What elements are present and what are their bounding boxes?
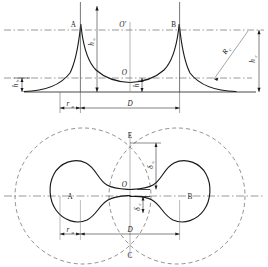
dimension-rc-line xyxy=(214,31,248,79)
dimension-delta-c-subscript: c xyxy=(137,204,142,206)
dimension-d-upper-label: D xyxy=(126,100,133,108)
dimension-delta-a-label: δ xyxy=(147,165,155,169)
dimension-delta-c: δ c xyxy=(134,197,151,214)
dimension-ra-upper: r a xyxy=(60,100,80,110)
label-peak-b: B xyxy=(171,21,176,29)
dimension-hb-subscript: b xyxy=(15,79,20,82)
dimension-d-lower-arrow-right xyxy=(175,232,179,235)
dimension-rc-subscript: c xyxy=(227,47,232,52)
label-midpoint-top: O' xyxy=(119,21,126,29)
label-lobe-a: A xyxy=(67,193,73,201)
dimension-hc: h c xyxy=(249,30,261,92)
dimension-h0-label-group: h 0 xyxy=(133,79,142,87)
dimension-h0-arrow-bottom xyxy=(141,88,144,92)
dimension-h0: h 0 xyxy=(133,78,144,92)
dimension-d-upper-arrow-right xyxy=(175,106,179,109)
dimension-hb-arrow-bottom xyxy=(21,88,24,92)
dimension-delta-c-arrow-bottom xyxy=(142,209,145,213)
dimension-h0-label: h xyxy=(133,83,141,87)
dimension-h0-subscript: 0 xyxy=(137,79,142,82)
dimension-delta-a-subscript: a xyxy=(150,161,155,164)
dimension-ha: h a xyxy=(88,6,99,92)
dimension-hc-subscript: c xyxy=(253,56,258,58)
dimension-ra-upper-arrow-right xyxy=(76,106,80,109)
label-peak-a: A xyxy=(71,21,77,29)
dimension-hc-label-group: h c xyxy=(249,56,258,63)
dimension-ra-lower-arrow-left xyxy=(60,232,64,235)
dimension-hc-arrow-top xyxy=(257,30,260,34)
dimension-hb-label-group: h b xyxy=(12,79,21,87)
dimension-ha-label: h xyxy=(88,42,96,46)
technical-diagram: A B O' O h a h 0 xyxy=(0,0,268,267)
dimension-ha-subscript: a xyxy=(91,38,96,41)
dimension-ra-upper-label: r xyxy=(67,100,70,108)
dimension-hb-label: h xyxy=(12,83,20,87)
dimension-ha-arrow-top xyxy=(95,6,98,11)
dimension-d-upper: D xyxy=(80,100,179,110)
dimension-delta-a-arrow-bottom xyxy=(155,186,158,190)
dimension-d-lower-arrow-left xyxy=(80,232,84,235)
dimension-hb: h b xyxy=(12,78,31,92)
dimension-ra-lower-label: r xyxy=(67,226,70,234)
label-center-o: O xyxy=(122,181,128,189)
dimension-ha-arrow-bottom xyxy=(95,87,98,92)
label-midpoint-curve: O xyxy=(122,69,128,77)
dimension-delta-c-label-group: δ c xyxy=(134,204,143,211)
dimension-delta-a-label-group: δ a xyxy=(147,161,156,169)
dimension-ha-label-group: h a xyxy=(88,38,97,46)
dimension-rc-slant: R c xyxy=(214,31,248,81)
dimension-d-lower-label: D xyxy=(126,226,133,234)
dimension-ra-upper-arrow-left xyxy=(60,106,64,109)
upper-panel: A B O' O h a h 0 xyxy=(4,2,264,113)
dimension-delta-c-label: δ xyxy=(134,207,142,211)
dimension-hc-arrow-bottom xyxy=(257,88,260,92)
label-bottom-c: C xyxy=(128,252,133,260)
dimension-ra-lower: r a xyxy=(60,226,80,236)
dimension-delta-a-arrow-top xyxy=(155,143,158,147)
dimension-hc-label: h xyxy=(249,59,257,63)
dimension-d-upper-arrow-left xyxy=(80,106,84,109)
diagram-canvas: A B O' O h a h 0 xyxy=(0,0,268,267)
label-lobe-b: B xyxy=(188,193,193,201)
dimension-ra-lower-arrow-right xyxy=(76,232,80,235)
label-top-e: E xyxy=(128,132,133,140)
dimension-hb-arrow-top xyxy=(21,78,24,82)
dimension-d-lower: D xyxy=(80,226,179,236)
lower-panel: E C A B O δ a δ c xyxy=(4,128,264,264)
